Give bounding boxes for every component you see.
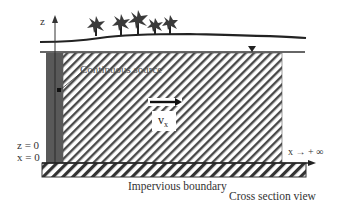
x-axis-arrow-icon [308, 160, 316, 166]
origin-z-label: z = 0 [17, 140, 39, 151]
impervious-boundary-label: Impervious boundary [128, 181, 227, 193]
velocity-subscript: x [164, 120, 168, 129]
cross-section-view-label: Cross section view [229, 191, 316, 203]
tree-icon [87, 16, 105, 36]
water-table-marker-icon [248, 46, 256, 52]
z-axis-arrow-icon [52, 15, 58, 23]
tree-icon [112, 14, 130, 35]
tree-icon [128, 10, 148, 34]
z-axis-label: z [40, 16, 45, 27]
x-axis-label: x → + ∞ [288, 147, 323, 157]
origin-x-label: x = 0 [17, 152, 40, 163]
impervious-boundary [42, 163, 306, 177]
trees [87, 10, 178, 36]
cross-section-diagram [0, 0, 342, 209]
source-label: Continuous source [80, 64, 162, 75]
velocity-label: vx [158, 114, 168, 129]
ground-surface-line [40, 34, 306, 42]
tree-icon [162, 15, 178, 34]
tree-icon [147, 18, 163, 35]
